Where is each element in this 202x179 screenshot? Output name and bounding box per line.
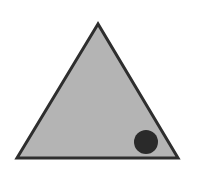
diagram-canvas: [0, 0, 202, 179]
dark-dot: [134, 130, 158, 154]
